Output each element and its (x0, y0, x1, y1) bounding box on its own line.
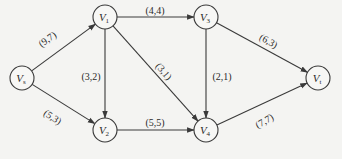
node-v4: V4 (194, 118, 218, 142)
arrow-icon (217, 23, 308, 73)
edge-v1-v4 (113, 26, 198, 121)
flow-network-diagram: (9,7)(5,3)(4,4)(3,2)(3,1)(5,5)(2,1)(6,3)… (0, 0, 342, 159)
edge-label: (7,7) (253, 111, 276, 131)
node-v3: V3 (194, 5, 218, 29)
edge-label: (5,5) (145, 117, 164, 129)
edge-label: (3,1) (153, 60, 175, 82)
arrow-icon (113, 26, 198, 121)
node-vt: Vt (306, 66, 330, 90)
edge-v3-vt (217, 23, 308, 73)
edge-label: (4,4) (145, 5, 164, 17)
node-vs: Vs (10, 66, 34, 90)
edge-label: (5,3) (41, 107, 64, 128)
node-v1: V1 (93, 5, 117, 29)
edge-label: (2,1) (212, 71, 231, 83)
node-v2: V2 (93, 118, 117, 142)
edge-label: (3,2) (81, 71, 100, 83)
edge-label: (6,3) (257, 31, 280, 51)
edge-label: (9,7) (36, 29, 59, 50)
